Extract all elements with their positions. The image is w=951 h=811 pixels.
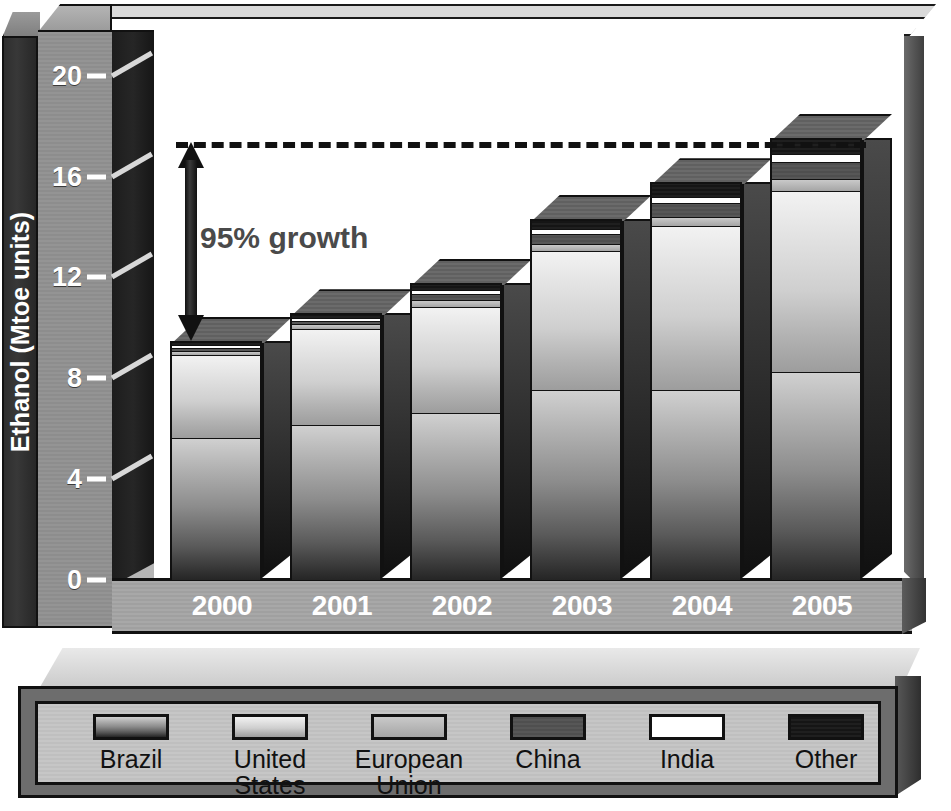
bar-front-face [170, 341, 262, 578]
bar-front-face [530, 219, 622, 578]
legend-swatch [510, 714, 586, 740]
bar-segment-brazil [652, 391, 740, 580]
bar-segment-united-states [652, 227, 740, 391]
bar-front-face [410, 283, 502, 578]
bar-segment-other [292, 315, 380, 319]
bar-column [170, 317, 292, 578]
bar-side-face [382, 313, 412, 578]
bar-segment-united-states [292, 330, 380, 426]
bar-column [410, 259, 532, 578]
wall-tick-mark [111, 353, 153, 380]
y-tick-label: 12 [52, 262, 82, 293]
x-axis-year-label: 2002 [432, 590, 492, 622]
growth-annotation-label: 95% growth [200, 221, 368, 255]
y-axis-title-panel: Ethanol (Mtoe units) [2, 36, 38, 628]
bar-segment-united-states [412, 308, 500, 414]
bar-column [530, 195, 652, 578]
bar-side-face [622, 219, 652, 578]
bar-segment-india [772, 155, 860, 163]
bar-segment-other [412, 285, 500, 291]
y-tick-mark [87, 477, 106, 482]
bar-segment-other [172, 343, 260, 346]
bar-side-face [862, 138, 892, 578]
bar-segment-india [532, 230, 620, 235]
bar-segment-india [172, 346, 260, 350]
y-tick-mark [87, 174, 106, 179]
wall-tick-mark [111, 151, 153, 178]
legend-label: EuropeanUnion [334, 746, 484, 798]
bar-segment-european-union [412, 301, 500, 307]
x-axis-year-label: 2003 [552, 590, 612, 622]
legend-label: Other [751, 746, 901, 772]
legend-swatch [788, 714, 864, 740]
legend-label: India [612, 746, 762, 772]
bar-segment-european-union [172, 352, 260, 356]
legend-swatch [93, 714, 169, 740]
x-axis-year-label: 2000 [192, 590, 252, 622]
tick-ribbon-cap [38, 4, 112, 32]
wall-tick-mark [111, 51, 153, 78]
y-tick-label: 20 [52, 60, 82, 91]
wall-tick-mark [111, 454, 153, 481]
y-tick-mark [87, 73, 106, 78]
y-tick-label: 0 [67, 565, 82, 596]
arrow-head-down [178, 315, 204, 341]
bar-front-face [650, 182, 742, 578]
legend-label: China [473, 746, 623, 772]
x-axis-year-label: 2001 [312, 590, 372, 622]
bar-segment-united-states [172, 356, 260, 439]
y-tick-label: 8 [67, 363, 82, 394]
bar-column [770, 114, 892, 578]
bar-side-face [742, 182, 772, 578]
bar-segment-china [652, 204, 740, 218]
y-axis-tick-ribbon: 048121620 [38, 30, 112, 628]
bar-segment-brazil [532, 391, 620, 580]
bar-segment-china [412, 295, 500, 301]
legend-item[interactable]: EuropeanUnion [334, 714, 484, 798]
chart-root: Ethanol (Mtoe units) 048121620 BrazilUni… [0, 0, 951, 811]
y-axis-title: Ethanol (Mtoe units) [6, 212, 35, 452]
legend-item[interactable]: UnitedStates [195, 714, 345, 798]
bar-segment-china [532, 235, 620, 245]
bar-segment-other [532, 221, 620, 230]
bar-segment-china [172, 349, 260, 352]
axis-panel-cap [2, 12, 40, 38]
bar-segment-india [412, 291, 500, 295]
bar-segment-united-states [532, 252, 620, 391]
bar-segment-other [652, 184, 740, 198]
bar-front-face [770, 138, 862, 578]
legend-items: BrazilUnitedStatesEuropeanUnionChinaIndi… [35, 701, 881, 785]
legend-item[interactable]: China [473, 714, 623, 772]
bar-segment-european-union [532, 245, 620, 253]
bar-side-face [262, 341, 292, 578]
bar-segment-european-union [772, 180, 860, 191]
y-tick-mark [87, 376, 106, 381]
y-tick-label: 4 [67, 464, 82, 495]
bar-column [650, 158, 772, 578]
bar-segment-china [772, 163, 860, 181]
wall-tick-mark [111, 252, 153, 279]
bar-segment-european-union [652, 218, 740, 227]
legend-item[interactable]: India [612, 714, 762, 772]
bar-segment-brazil [412, 414, 500, 580]
legend-label: Brazil [56, 746, 206, 772]
legend-swatch [232, 714, 308, 740]
x-axis-year-label: 2004 [672, 590, 732, 622]
bar-column [290, 289, 412, 578]
bar-side-face [502, 283, 532, 578]
bar-segment-brazil [772, 373, 860, 580]
legend-box: BrazilUnitedStatesEuropeanUnionChinaIndi… [18, 686, 898, 798]
y-tick-label: 16 [52, 161, 82, 192]
legend-item[interactable]: Brazil [56, 714, 206, 772]
bar-segment-united-states [772, 192, 860, 374]
legend-swatch [649, 714, 725, 740]
arrow-shaft [185, 160, 197, 323]
bar-segment-brazil [172, 439, 260, 580]
bar-segment-brazil [292, 426, 380, 580]
legend-item[interactable]: Other [751, 714, 901, 772]
frame-right-wall [902, 36, 924, 592]
bar-segment-india [652, 198, 740, 204]
y-tick-mark [87, 578, 106, 583]
plot-floor-side [902, 578, 926, 634]
y-tick-mark [87, 275, 106, 280]
